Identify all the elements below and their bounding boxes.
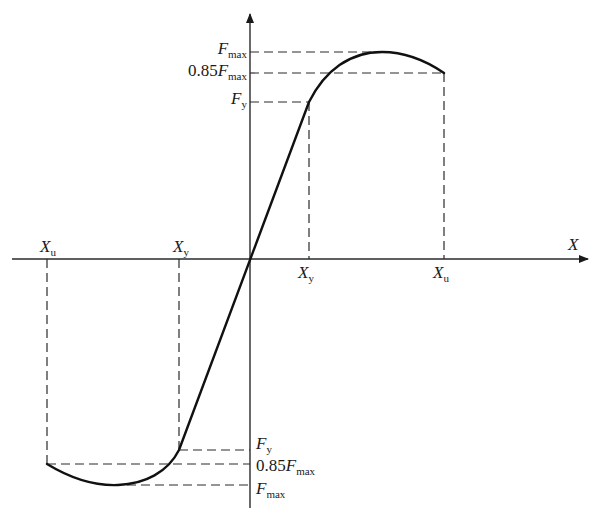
tick-xy-positive: Xy: [297, 263, 314, 284]
tick-fy-positive: Fy: [230, 89, 247, 110]
tick-xy-negative: Xy: [172, 237, 189, 258]
tick-fmax-negative: Fmax: [255, 479, 286, 500]
skeleton-curve: [47, 52, 444, 485]
x-axis-label: X: [567, 235, 579, 254]
tick-xu-positive: Xu: [432, 263, 449, 284]
tick-fy-negative: Fy: [255, 434, 272, 455]
tick-085fmax-negative: 0.85Fmax: [256, 456, 316, 477]
skeleton-curve-diagram: X Xy Xu Xu Xy Fmax 0.85Fmax Fy Fy 0.85Fm…: [0, 0, 602, 515]
tick-fmax-positive: Fmax: [217, 39, 248, 60]
tick-xu-negative: Xu: [39, 237, 56, 258]
tick-085fmax-positive: 0.85Fmax: [188, 61, 248, 82]
